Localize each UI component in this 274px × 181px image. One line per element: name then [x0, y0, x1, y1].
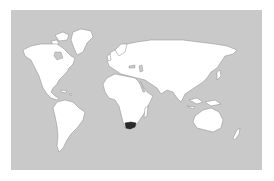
south-america — [53, 100, 85, 152]
world-map — [11, 10, 262, 170]
africa — [103, 74, 153, 128]
british-isles — [107, 54, 111, 61]
north-america — [23, 44, 75, 100]
greenland — [71, 29, 93, 55]
caribbean — [61, 90, 72, 96]
arctic-islands — [51, 32, 69, 45]
map-svg — [11, 10, 262, 170]
south-africa-highlight — [125, 122, 136, 129]
australia — [193, 108, 223, 132]
japan — [217, 70, 221, 80]
new-zealand — [233, 128, 240, 140]
southeast-asia-islands — [187, 98, 221, 109]
